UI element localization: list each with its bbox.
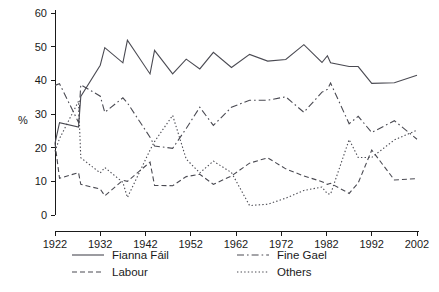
chart-legend: Fianna FáilFine GaelLabourOthers: [72, 249, 327, 278]
legend-label-others: Others: [277, 266, 312, 278]
x-tick-label: 1992: [360, 238, 384, 250]
series-line-fine-gael: [55, 83, 417, 148]
x-axis: 192219321942195219621972198219922002: [43, 231, 429, 250]
y-tick-label: 50: [35, 41, 47, 53]
legend-label-fianna-f-il: Fianna Fáil: [112, 249, 169, 261]
y-tick-label: 20: [35, 142, 47, 154]
x-tick-label: 1922: [43, 238, 67, 250]
y-tick-label: 60: [35, 7, 47, 19]
y-axis-title: %: [18, 114, 28, 126]
series-line-fianna-f-il: [55, 40, 417, 143]
series-lines: [55, 40, 417, 205]
x-tick-label: 2002: [405, 238, 429, 250]
legend-label-fine-gael: Fine Gael: [277, 249, 327, 261]
y-tick-label: 40: [35, 74, 47, 86]
x-tick-label: 1932: [88, 238, 112, 250]
y-axis: 0102030405060: [35, 7, 55, 221]
x-tick-label: 1962: [224, 238, 248, 250]
series-line-others: [55, 101, 417, 205]
chart-container: 0102030405060 19221932194219521962197219…: [0, 0, 439, 292]
line-chart: 0102030405060 19221932194219521962197219…: [0, 0, 439, 292]
series-line-labour: [55, 143, 417, 196]
y-tick-label: 0: [41, 209, 47, 221]
legend-label-labour: Labour: [112, 266, 148, 278]
y-tick-label: 10: [35, 175, 47, 187]
y-tick-label: 30: [35, 108, 47, 120]
x-tick-label: 1952: [179, 238, 203, 250]
